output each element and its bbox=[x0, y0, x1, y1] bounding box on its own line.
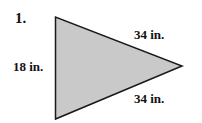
problem-number: 1. bbox=[15, 11, 26, 26]
triangle-figure: 1. 34 in. 18 in. 34 in. bbox=[0, 0, 202, 123]
side-label-top: 34 in. bbox=[134, 28, 164, 41]
side-label-bottom: 34 in. bbox=[134, 92, 164, 105]
side-label-left: 18 in. bbox=[13, 60, 43, 73]
